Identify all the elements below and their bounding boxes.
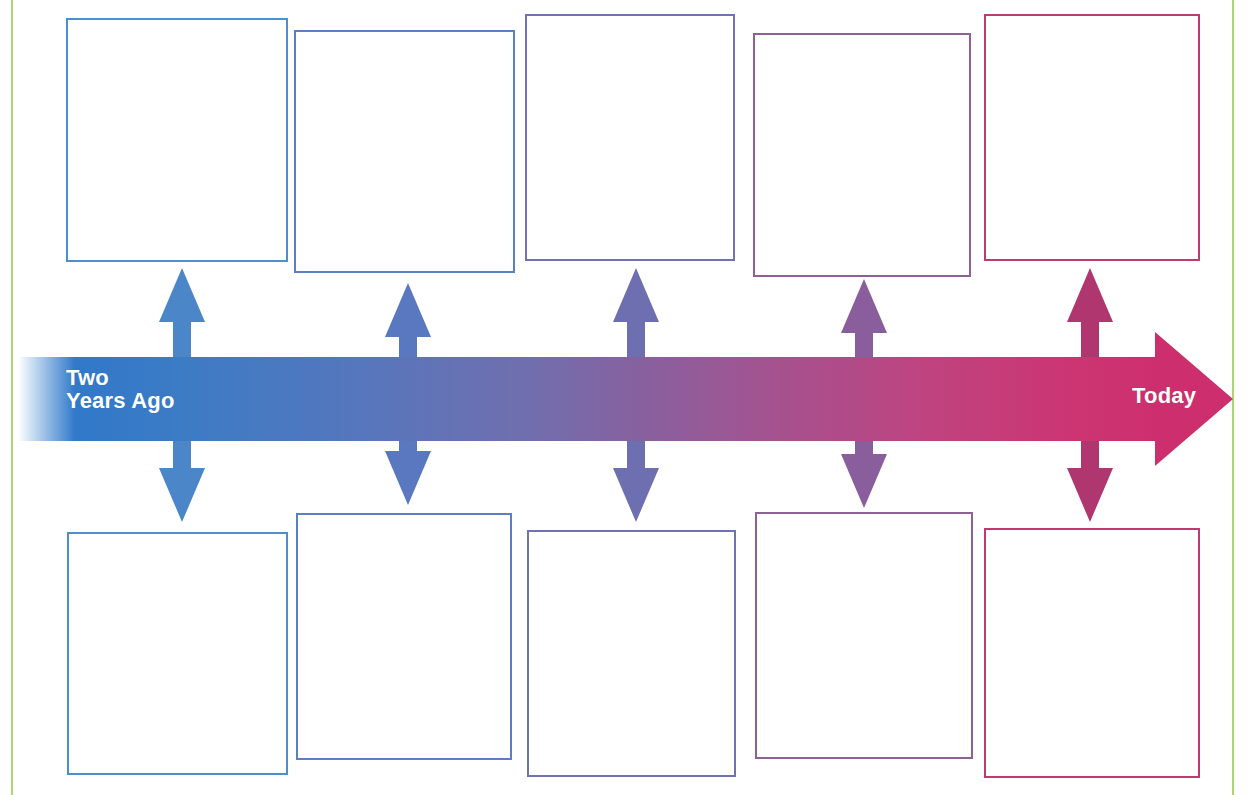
response-box-top-5[interactable] xyxy=(984,14,1200,261)
response-box-top-3[interactable] xyxy=(525,14,735,261)
response-box-top-2[interactable] xyxy=(294,30,515,273)
response-box-top-4[interactable] xyxy=(753,33,971,277)
worksheet-canvas: Two Years Ago Today xyxy=(0,0,1258,795)
page-rule-left-icon xyxy=(11,0,13,795)
timeline-bar xyxy=(18,357,1158,441)
response-box-top-1[interactable] xyxy=(66,18,288,262)
response-box-bottom-1[interactable] xyxy=(67,532,288,775)
response-box-bottom-3[interactable] xyxy=(527,530,736,777)
timeline-start-label: Two Years Ago xyxy=(66,366,175,412)
response-box-bottom-5[interactable] xyxy=(984,528,1200,778)
response-box-bottom-2[interactable] xyxy=(296,513,512,760)
response-box-bottom-4[interactable] xyxy=(755,512,973,759)
timeline-end-label: Today xyxy=(1132,384,1196,407)
